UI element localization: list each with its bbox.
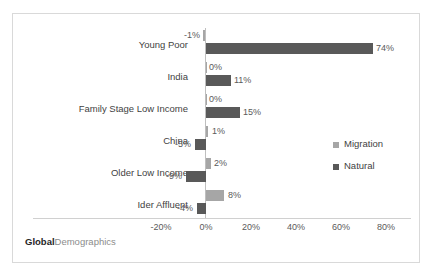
- branding-light-text: Demographics: [55, 236, 116, 247]
- x-tick-label-20: 20%: [229, 222, 273, 232]
- value-label-natural-china: -5%: [166, 139, 191, 150]
- legend-label-natural: Natural: [344, 160, 375, 172]
- value-label-migration-ider-affluent: 8%: [228, 190, 241, 201]
- bar-group-india: India 0% 11%: [13, 62, 421, 92]
- bar-migration-older-low-income: [206, 158, 211, 169]
- value-label-natural-young-poor: 74%: [376, 43, 394, 54]
- value-label-natural-family-stage-low-income: 15%: [243, 107, 261, 118]
- value-label-migration-older-low-income: 2%: [214, 158, 227, 169]
- chart-container: Young Poor -1% 74% India 0% 11% Family S…: [12, 13, 420, 263]
- bar-natural-older-low-income: [186, 171, 206, 182]
- value-label-migration-china: 1%: [212, 126, 225, 137]
- x-tick-label-60: 60%: [319, 222, 363, 232]
- x-tick-label-0: 0%: [184, 222, 228, 232]
- bar-group-family-stage-low-income: Family Stage Low Income 0% 15%: [13, 94, 421, 124]
- category-label-ider-affluent: Ider Affluent: [13, 199, 188, 211]
- x-tick-label-neg20: -20%: [139, 222, 183, 232]
- bar-migration-young-poor: [203, 30, 205, 41]
- bar-group-young-poor: Young Poor -1% 74%: [13, 30, 421, 60]
- bar-migration-ider-affluent: [206, 190, 224, 201]
- bar-natural-family-stage-low-income: [206, 107, 240, 118]
- chart-legend: Migration Natural: [333, 138, 417, 182]
- value-label-natural-ider-affluent: -4%: [168, 203, 193, 214]
- legend-label-migration: Migration: [344, 138, 383, 150]
- value-label-natural-older-low-income: -9%: [157, 171, 182, 182]
- category-label-young-poor: Young Poor: [13, 39, 188, 51]
- x-tick-label-40: 40%: [274, 222, 318, 232]
- bar-group-ider-affluent: Ider Affluent 8% -4%: [13, 190, 421, 220]
- bar-natural-young-poor: [206, 43, 373, 54]
- value-label-migration-family-stage-low-income: 0%: [209, 94, 222, 105]
- legend-swatch-icon-migration: [333, 142, 339, 148]
- branding-watermark: GlobalDemographics: [25, 236, 116, 247]
- bar-natural-ider-affluent: [197, 203, 206, 214]
- plot-area: Young Poor -1% 74% India 0% 11% Family S…: [13, 14, 421, 264]
- bar-migration-china: [206, 126, 208, 137]
- value-label-migration-young-poor: -1%: [176, 30, 200, 41]
- bar-migration-india: [206, 62, 207, 73]
- legend-item-natural[interactable]: Natural: [333, 160, 417, 182]
- legend-swatch-icon-natural: [333, 164, 339, 170]
- category-label-china: China: [13, 135, 188, 147]
- value-label-migration-india: 0%: [209, 62, 222, 73]
- legend-item-migration[interactable]: Migration: [333, 138, 417, 160]
- branding-bold-text: Global: [25, 236, 55, 247]
- bar-natural-india: [206, 75, 231, 86]
- value-label-natural-india: 11%: [234, 75, 251, 86]
- bar-migration-family-stage-low-income: [206, 94, 207, 105]
- x-tick-label-80: 80%: [364, 222, 408, 232]
- category-label-family-stage-low-income: Family Stage Low Income: [13, 103, 188, 115]
- category-label-india: India: [13, 71, 188, 83]
- bar-natural-china: [195, 139, 206, 150]
